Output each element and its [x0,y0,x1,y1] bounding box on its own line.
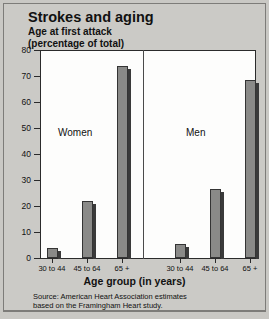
bar-men-30-to-44 [175,244,186,258]
bar-women-65-+ [117,66,128,258]
bar-shadow [128,69,131,259]
bar-men-65-+ [245,80,256,258]
y-axis-tick-label: 10 [3,227,31,237]
y-axis-tick [34,232,40,233]
panel-label-women: Women [58,127,92,138]
y-axis-tick-label: 60 [3,97,31,107]
y-axis-tick [34,258,40,259]
source-note: Source: American Heart Association estim… [33,292,187,310]
bar-men-45-to-64 [210,189,221,258]
bar-women-45-to-64 [82,201,93,258]
x-axis-tick [122,259,123,263]
bar-shadow [93,204,96,259]
y-axis-tick-label: 0 [3,253,31,263]
chart-figure: Strokes and aging Age at first attack (p… [0,0,269,319]
x-axis-tick [250,259,251,263]
chart-title: Strokes and aging [28,9,154,25]
y-axis-tick [34,128,40,129]
x-axis-tick [52,259,53,263]
x-axis-tick-label: 65 + [99,264,145,273]
y-axis-tick [34,206,40,207]
y-axis-tick-label: 80 [3,45,31,55]
x-axis-tick [87,259,88,263]
bar-women-30-to-44 [47,248,58,258]
y-axis-tick-label: 40 [3,149,31,159]
y-axis-tick-label: 70 [3,71,31,81]
panel-label-men: Men [186,127,205,138]
x-axis-tick [215,259,216,263]
bar-shadow [186,247,189,259]
y-axis-tick-label: 50 [3,123,31,133]
y-axis-tick-label: 20 [3,201,31,211]
y-axis-tick [34,76,40,77]
bottom-rule [3,311,266,312]
y-axis-tick [34,154,40,155]
y-axis-tick [34,180,40,181]
panel-divider [143,50,144,259]
x-axis-title: Age group (in years) [0,275,269,287]
y-axis-tick-label: 30 [3,175,31,185]
y-axis-tick [34,50,40,51]
bar-shadow [256,83,259,259]
y-axis-tick [34,102,40,103]
x-axis-tick [180,259,181,263]
x-axis-tick-label: 65 + [227,264,269,273]
bar-shadow [221,192,224,259]
bar-shadow [58,251,61,259]
chart-subtitle: Age at first attack (percentage of total… [28,26,124,49]
